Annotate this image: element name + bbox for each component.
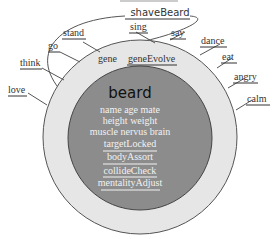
diagram-canvas: shaveBeard stand go think love sing say … — [0, 0, 278, 239]
inner-line: collideCheck — [104, 165, 157, 176]
shavebeard-label: shaveBeard — [130, 7, 189, 18]
center-title: beard — [108, 84, 151, 102]
label-angry: angry — [234, 71, 257, 82]
inner-line: muscle nervus brain — [90, 126, 171, 137]
inner-line: targetLocked — [104, 138, 157, 149]
inner-line: height weight — [103, 115, 158, 126]
ring-label-gene: gene — [98, 53, 117, 64]
label-sing: sing — [130, 21, 147, 32]
label-go: go — [48, 40, 58, 51]
shavebeard-connector-right — [140, 16, 198, 42]
label-calm: calm — [247, 93, 267, 104]
inner-line: bodyAssort — [107, 151, 153, 162]
label-love: love — [8, 84, 26, 95]
label-say: say — [171, 27, 184, 38]
label-dance: dance — [201, 35, 225, 46]
love-connector — [28, 93, 47, 105]
think-connector — [42, 68, 64, 80]
label-stand: stand — [63, 27, 84, 38]
label-think: think — [20, 57, 41, 68]
stand-connector — [83, 42, 100, 52]
ring-label-geneevolve: geneEvolve — [128, 53, 176, 64]
inner-line: mentalityAdjust — [98, 177, 163, 188]
inner-line: name age mate — [100, 104, 161, 115]
go-connector — [60, 52, 80, 62]
label-eat: eat — [222, 51, 234, 62]
